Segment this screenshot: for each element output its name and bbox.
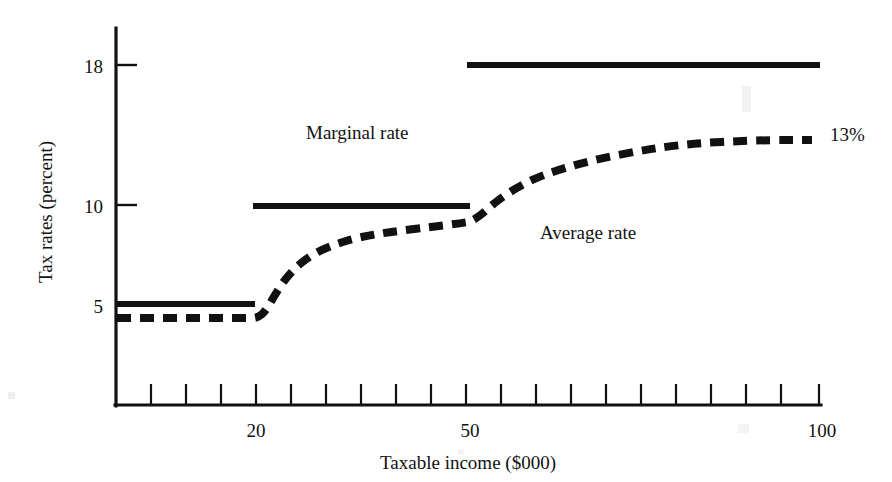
x-axis-title: Taxable income ($000) (380, 452, 556, 474)
x-tick-label-20: 20 (247, 420, 266, 441)
y-tick-label-5: 5 (94, 296, 104, 317)
average-rate-series (117, 140, 812, 318)
marginal-rate-label: Marginal rate (306, 122, 409, 143)
y-tick-label-10: 10 (84, 196, 103, 217)
y-tick-marks (116, 65, 137, 305)
top-rate-label: 13% (830, 124, 865, 145)
average-rate-label: Average rate (540, 222, 636, 243)
tax-rate-chart: 18 10 5 20 50 100 Tax rates (percent) Ta… (0, 0, 892, 482)
x-tick-label-100: 100 (808, 420, 837, 441)
x-tick-label-50: 50 (461, 420, 480, 441)
axis-group (115, 28, 821, 406)
average-rate-curve (117, 140, 812, 318)
y-tick-label-18: 18 (84, 56, 103, 77)
x-tick-marks (151, 384, 819, 405)
marginal-rate-series (117, 65, 820, 304)
y-axis-title: Tax rates (percent) (35, 141, 57, 283)
chart-canvas: 18 10 5 20 50 100 Tax rates (percent) Ta… (0, 0, 892, 482)
